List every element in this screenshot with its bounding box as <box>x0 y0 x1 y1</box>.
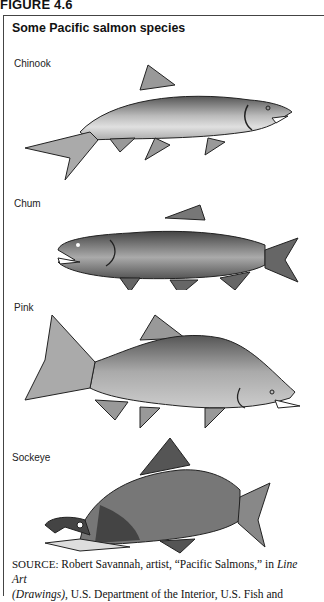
sockeye-salmon-illustration <box>40 435 275 555</box>
source-italic-2: (Drawings) <box>12 588 65 600</box>
source-text-1: Robert Savannah, artist, “Pacific Salmon… <box>58 558 276 570</box>
species-label-chum: Chum <box>14 198 41 209</box>
pink-salmon-illustration <box>20 310 305 430</box>
source-label: SOURCE: <box>12 558 58 570</box>
figure-number: FIGURE 4.6 <box>0 0 73 12</box>
figure-title: Some Pacific salmon species <box>12 20 185 35</box>
chum-salmon-illustration <box>50 200 305 290</box>
source-citation: SOURCE: Robert Savannah, artist, “Pacifi… <box>12 557 312 602</box>
source-text-2: , U.S. Department of the Interior, U.S. … <box>65 588 283 600</box>
chinook-salmon-illustration <box>20 60 300 185</box>
